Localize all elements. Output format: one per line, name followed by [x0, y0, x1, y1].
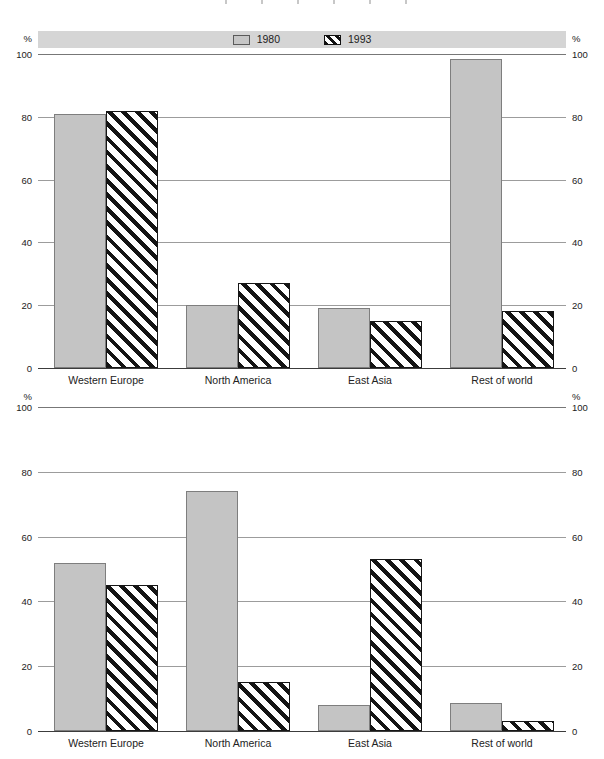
- chart-upper-bar-chart: 002020404060608080100100%%Western Europe…: [0, 0, 604, 759]
- category-label-western-europe: Western Europe: [41, 737, 171, 749]
- legend-label-1993: 1993: [348, 34, 371, 45]
- y-tick-label-left-0: 0: [0, 726, 32, 737]
- y-tick-label-right-20: 20: [572, 300, 604, 311]
- y-tick-label-left-20: 20: [0, 661, 32, 672]
- category-label-east-asia: East Asia: [305, 374, 435, 386]
- y-tick-label-right-60: 60: [572, 532, 604, 543]
- cropped-caption-fragment: [225, 0, 430, 4]
- legend-item-1993: 1993: [324, 34, 371, 45]
- bar-1993-western-europe: [106, 111, 158, 368]
- y-tick-label-right-20: 20: [572, 661, 604, 672]
- y-tick-label-right-40: 40: [572, 596, 604, 607]
- bar-1980-rest-of-world: [450, 59, 502, 368]
- legend: 19801993: [38, 31, 566, 48]
- y-tick-label-right-80: 80: [572, 467, 604, 478]
- y-tick-label-left-60: 60: [0, 532, 32, 543]
- y-tick-label-left-20: 20: [0, 300, 32, 311]
- legend-swatch-1993-icon: [324, 35, 341, 45]
- y-tick-label-right-40: 40: [572, 237, 604, 248]
- y-tick-label-right-100: 100: [572, 49, 604, 60]
- gridline-0: [38, 731, 566, 732]
- bar-1980-east-asia: [318, 308, 370, 368]
- y-tick-label-right-60: 60: [572, 175, 604, 186]
- bar-1980-rest-of-world: [450, 703, 502, 731]
- y-axis-unit-label-left: %: [0, 33, 32, 44]
- gridline-100: [38, 407, 566, 408]
- y-tick-label-left-100: 100: [0, 49, 32, 60]
- y-tick-label-left-100: 100: [0, 402, 32, 413]
- gridline-80: [38, 117, 566, 118]
- bar-1980-western-europe: [54, 563, 106, 731]
- bar-1993-north-america: [238, 283, 290, 368]
- bar-1980-east-asia: [318, 705, 370, 731]
- bar-1993-east-asia: [370, 321, 422, 368]
- y-tick-label-left-60: 60: [0, 175, 32, 186]
- gridline-60: [38, 537, 566, 538]
- y-tick-label-right-0: 0: [572, 726, 604, 737]
- y-tick-label-right-80: 80: [572, 112, 604, 123]
- bar-1980-north-america: [186, 305, 238, 368]
- legend-swatch-1980-icon: [233, 35, 250, 45]
- y-tick-label-left-80: 80: [0, 112, 32, 123]
- bar-1993-rest-of-world: [502, 311, 554, 368]
- gridline-40: [38, 242, 566, 243]
- category-label-rest-of-world: Rest of world: [437, 374, 567, 386]
- y-axis-unit-label-right: %: [572, 33, 604, 44]
- legend-label-1980: 1980: [257, 34, 280, 45]
- y-tick-label-left-40: 40: [0, 237, 32, 248]
- y-axis-unit-label-right: %: [572, 391, 604, 402]
- category-label-rest-of-world: Rest of world: [437, 737, 567, 749]
- gridline-20: [38, 666, 566, 667]
- category-label-north-america: North America: [173, 374, 303, 386]
- y-tick-label-right-0: 0: [572, 363, 604, 374]
- category-label-western-europe: Western Europe: [41, 374, 171, 386]
- bar-1980-western-europe: [54, 114, 106, 368]
- gridline-20: [38, 305, 566, 306]
- category-label-north-america: North America: [173, 737, 303, 749]
- gridline-60: [38, 180, 566, 181]
- y-tick-label-left-80: 80: [0, 467, 32, 478]
- bar-1980-north-america: [186, 491, 238, 731]
- bar-1993-east-asia: [370, 559, 422, 731]
- y-tick-label-left-40: 40: [0, 596, 32, 607]
- legend-item-1980: 1980: [233, 34, 280, 45]
- gridline-100: [38, 54, 566, 55]
- bar-1993-western-europe: [106, 585, 158, 731]
- category-label-east-asia: East Asia: [305, 737, 435, 749]
- gridline-80: [38, 472, 566, 473]
- gridline-0: [38, 368, 566, 369]
- y-tick-label-left-0: 0: [0, 363, 32, 374]
- y-axis-unit-label-left: %: [0, 391, 32, 402]
- gridline-40: [38, 601, 566, 602]
- bar-1993-north-america: [238, 682, 290, 731]
- y-tick-label-right-100: 100: [572, 402, 604, 413]
- figure-page: 19801993 002020404060608080100100%%Weste…: [0, 0, 604, 759]
- chart-lower-bar-chart: 002020404060608080100100%%Western Europe…: [0, 0, 604, 759]
- bar-1993-rest-of-world: [502, 721, 554, 731]
